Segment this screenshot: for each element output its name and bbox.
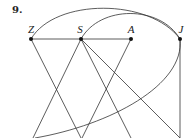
vertex-z — [29, 37, 33, 41]
arc-z-j — [31, 8, 180, 39]
graph-figure: 9. Z S A J — [0, 0, 194, 138]
label-s: S — [77, 23, 83, 35]
label-j: J — [179, 23, 184, 35]
graph-diagram — [0, 0, 194, 138]
edge-s-bottom-3 — [81, 39, 180, 138]
vertex-s — [79, 37, 83, 41]
label-z: Z — [28, 23, 34, 35]
vertex-j — [178, 37, 182, 41]
label-a: A — [128, 23, 135, 35]
vertex-a — [129, 37, 133, 41]
